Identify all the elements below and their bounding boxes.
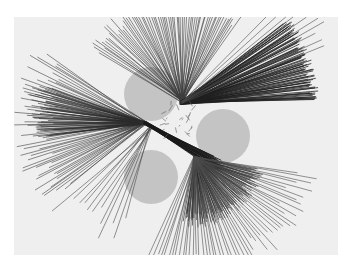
ray-casting-diagram bbox=[0, 0, 353, 267]
